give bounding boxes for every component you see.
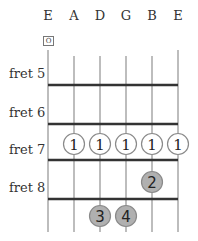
fretboard: 11111234: [0, 0, 198, 241]
finger-number: 3: [95, 208, 105, 226]
finger-number: 1: [95, 136, 105, 154]
finger-number: 1: [69, 136, 79, 154]
finger-number: 1: [173, 136, 183, 154]
finger-number: 2: [147, 174, 157, 192]
finger-number: 1: [121, 136, 131, 154]
finger-number: 1: [147, 136, 157, 154]
finger-number: 4: [121, 208, 131, 226]
chord-diagram: E A D G B E O fret 5 fret 6 fret 7 fret …: [0, 0, 198, 241]
